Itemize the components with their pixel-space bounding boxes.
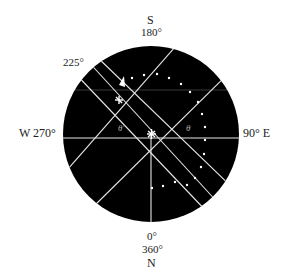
label-west: W 270° bbox=[19, 127, 56, 139]
label-225: 225° bbox=[63, 57, 84, 68]
label-theta-prime: θ' bbox=[118, 124, 124, 133]
label-north: N bbox=[147, 257, 156, 269]
label-180: 180° bbox=[141, 27, 162, 38]
label-0: 0° bbox=[147, 231, 157, 242]
label-theta: θ bbox=[186, 124, 190, 133]
label-360: 360° bbox=[142, 244, 163, 255]
label-east: 90° E bbox=[243, 127, 270, 139]
label-south: S bbox=[147, 14, 154, 26]
